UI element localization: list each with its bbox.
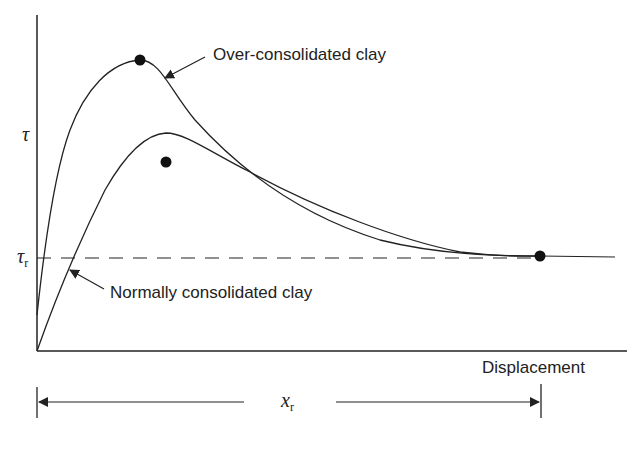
over-consolidated-curve xyxy=(37,60,540,315)
residual-marker xyxy=(535,251,546,262)
tau-r-label: τr xyxy=(17,246,28,269)
oc-clay-label: Over-consolidated clay xyxy=(213,46,386,63)
diagram-canvas xyxy=(0,0,642,449)
y-axis-label: τ xyxy=(22,124,29,144)
nc-leader-arrow xyxy=(70,270,104,289)
nc-peak-marker-dot xyxy=(161,157,172,168)
tau-symbol: τ xyxy=(22,123,29,145)
oc-peak-marker xyxy=(135,55,146,66)
tau-r-subscript: r xyxy=(24,256,28,270)
nc-clay-label: Normally consolidated clay xyxy=(110,284,312,301)
xr-label: xr xyxy=(281,390,294,413)
x-axis-label: Displacement xyxy=(482,359,585,376)
normally-consolidated-curve xyxy=(37,133,540,351)
residual-tail-line xyxy=(540,256,615,257)
xr-main: x xyxy=(281,389,290,411)
oc-leader-arrow xyxy=(165,57,205,78)
xr-subscript: r xyxy=(290,400,294,414)
